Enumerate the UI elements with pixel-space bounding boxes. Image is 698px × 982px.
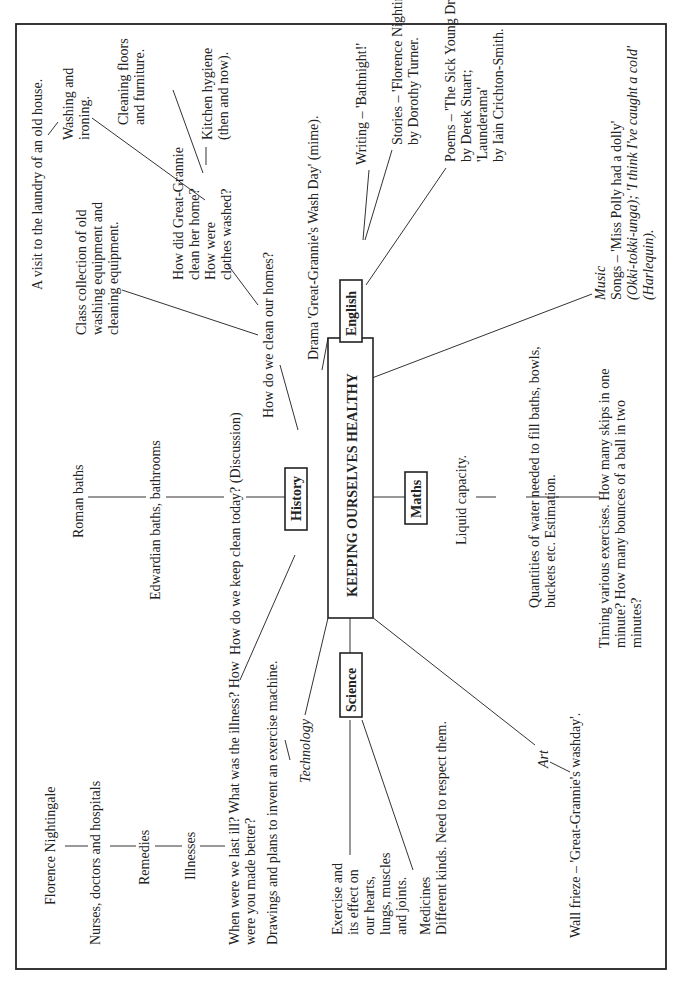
svg-text:its effect on: its effect on [346, 869, 361, 935]
svg-text:Exercise and: Exercise and [330, 863, 345, 935]
svg-text:clean her home?: clean her home? [187, 188, 202, 280]
svg-text:washing equipment and: washing equipment and [90, 202, 105, 335]
svg-text:minutes?: minutes? [629, 597, 644, 648]
svg-text:our hearts,: our hearts, [362, 876, 377, 935]
svg-text:Medicines: Medicines [418, 877, 433, 935]
keep-clean-today: How do we keep clean today? (Discussion) [228, 412, 244, 655]
liquid-capacity: Liquid capacity. [454, 455, 469, 545]
svg-text:by Iain Crichton-Smith.: by Iain Crichton-Smith. [491, 29, 506, 162]
exercise-effects: Exercise and its effect on our hearts, l… [330, 853, 409, 935]
subject-maths: Maths [409, 479, 424, 518]
subject-english: English [344, 291, 359, 336]
timing-exercises: Timing various exercises. How many skips… [597, 369, 644, 648]
svg-text:Class collection of old: Class collection of old [74, 209, 89, 335]
connector-lines [48, 90, 600, 870]
svg-text:(Harlequin).: (Harlequin). [641, 230, 657, 300]
svg-text:Timing various exercises. How: Timing various exercises. How many skips… [597, 369, 612, 648]
stories: Stories – 'Florence Nightingale' by Doro… [390, 0, 421, 145]
svg-text:minute? How many bounces of a: minute? How many bounces of a ball in tw… [613, 400, 628, 648]
illness-question: When were we last ill? What was the illn… [227, 660, 258, 945]
wall-frieze: Wall frieze – 'Great-Grannie's washday'. [568, 713, 583, 938]
kitchen-hygiene: Kitchen hygiene (then and now). [200, 48, 232, 140]
svg-text:(then and now).: (then and now). [216, 52, 232, 140]
svg-text:Washing and: Washing and [61, 68, 76, 140]
svg-text:ironing.: ironing. [77, 96, 92, 140]
svg-text:clothes washed?: clothes washed? [219, 189, 234, 280]
class-collection: Class collection of old washing equipmen… [74, 202, 121, 335]
svg-text:Songs – 'Miss Polly had a doll: Songs – 'Miss Polly had a dolly' [609, 121, 624, 300]
technology-label: Technology [298, 718, 313, 783]
svg-text:were you made better?: were you made better? [243, 818, 258, 945]
medicines: Medicines Different kinds. Need to respe… [418, 721, 449, 935]
svg-text:Music: Music [593, 265, 608, 301]
svg-text:Cleaning floors: Cleaning floors [116, 38, 131, 125]
remedies: Remedies [137, 830, 152, 885]
writing: Writing – 'Bathnight!' [354, 43, 369, 165]
svg-text:Different kinds. Need to respe: Different kinds. Need to respect them. [434, 721, 449, 935]
drawings-plans: Drawings and plans to invent an exercise… [265, 660, 280, 945]
svg-text:(Okki-tokki-unga); 'I think I': (Okki-tokki-unga); 'I think I've caught … [625, 45, 641, 300]
music: Music Songs – 'Miss Polly had a dolly' (… [593, 45, 657, 301]
svg-text:buckets etc. Estimation.: buckets etc. Estimation. [543, 474, 558, 608]
visit-laundry: A visit to the laundry of an old house. [30, 79, 45, 290]
subject-history: History [289, 476, 304, 521]
svg-text:by Dorothy Turner.: by Dorothy Turner. [406, 37, 421, 145]
nurses-doctors: Nurses, doctors and hospitals [88, 781, 103, 945]
svg-text:'Launderama': 'Launderama' [475, 87, 490, 162]
cleaning-floors: Cleaning floors and furniture. [116, 38, 147, 125]
art-label: Art [536, 749, 551, 769]
svg-text:lungs, muscles: lungs, muscles [378, 853, 393, 935]
svg-text:Quantities of water needed to: Quantities of water needed to fill baths… [527, 346, 542, 608]
illnesses: Illnesses [183, 832, 198, 880]
svg-text:Poems – 'The Sick Young Dragon: Poems – 'The Sick Young Dragon' [443, 0, 458, 162]
drama: Drama 'Great-Grannie's Wash Day' (mime). [306, 116, 322, 360]
clean-our-homes: How do we clean our homes? [261, 252, 276, 418]
svg-text:and joints.: and joints. [394, 877, 409, 935]
subject-science: Science [344, 668, 359, 712]
great-grannie-questions: How did Great-Grannie clean her home? Ho… [171, 147, 234, 280]
svg-text:Kitchen hygiene: Kitchen hygiene [200, 48, 215, 140]
roman-baths: Roman baths [71, 465, 86, 539]
central-topic: KEEPING OURSELVES HEALTHY [345, 373, 360, 597]
quantities: Quantities of water needed to fill baths… [527, 346, 558, 608]
washing-ironing: Washing and ironing. [61, 68, 92, 140]
florence-nightingale: Florence Nightingale [43, 786, 58, 905]
svg-text:How did Great-Grannie: How did Great-Grannie [171, 147, 186, 280]
svg-text:When were we last ill? What wa: When were we last ill? What was the illn… [227, 660, 242, 945]
svg-text:Stories – 'Florence Nightingal: Stories – 'Florence Nightingale' [390, 0, 405, 145]
svg-text:cleaning equipment.: cleaning equipment. [106, 221, 121, 335]
svg-text:How were: How were [203, 222, 218, 280]
edwardian-baths: Edwardian baths, bathrooms [148, 440, 163, 600]
svg-text:and furniture.: and furniture. [132, 49, 147, 125]
svg-text:by Derek Stuart;: by Derek Stuart; [459, 69, 474, 162]
mind-map-diagram: KEEPING OURSELVES HEALTHY History Englis… [0, 0, 698, 982]
